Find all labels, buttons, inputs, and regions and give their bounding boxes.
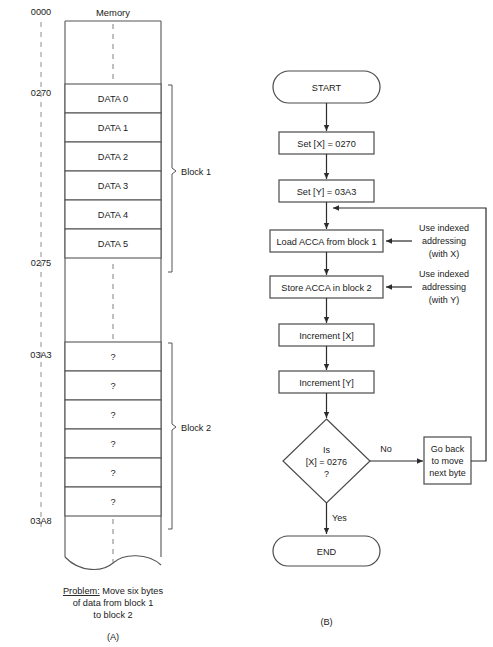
memory-column-torn-bottom <box>65 556 161 570</box>
flow-node-load-acca-label: Load ACCA from block 1 <box>276 237 376 247</box>
panel-b-flowchart: START Set [X] = 0270 Set [Y] = 03A3 Load… <box>270 71 486 627</box>
flow-node-decision-line3: ? <box>324 469 329 479</box>
annotation-load-line2: addressing <box>422 236 466 246</box>
block2-cell-label-0: ? <box>110 352 115 362</box>
annotation-load-line1: Use indexed <box>419 223 469 233</box>
memory-column-title: Memory <box>96 7 130 18</box>
block2-cell-label-1: ? <box>110 381 115 391</box>
address-label-03A8: 03A8 <box>30 516 51 526</box>
block1-cell-label-1: DATA 1 <box>98 123 128 133</box>
block1-label: Block 1 <box>181 167 211 177</box>
flow-node-decision-line2: [X] = 0276 <box>306 457 347 467</box>
flow-node-go-back-line2: to move <box>431 456 463 466</box>
panel-a-label: (A) <box>107 632 119 642</box>
annotation-store-line2: addressing <box>422 282 466 292</box>
flow-node-increment-x-label: Increment [X] <box>299 331 354 341</box>
block2-cells: ? ? ? ? ? ? <box>65 342 161 516</box>
annotation-load-line3: (with X) <box>429 249 460 259</box>
block2-cell-label-5: ? <box>110 497 115 507</box>
address-label-0000: 0000 <box>31 7 51 17</box>
block2-cell-label-2: ? <box>110 410 115 420</box>
flow-node-store-acca-label: Store ACCA in block 2 <box>281 283 371 293</box>
block1-cell-label-5: DATA 5 <box>98 239 128 249</box>
memory-block-move-figure: Memory 0000 0270 0275 03A3 03A8 DATA 0 <box>0 0 493 647</box>
flow-node-end-label: END <box>317 547 337 557</box>
block1-cell-label-4: DATA 4 <box>98 210 128 220</box>
branch-label-yes: Yes <box>332 513 347 523</box>
block2-cell-label-3: ? <box>110 439 115 449</box>
panel-a-caption-problem-word: Problem: <box>63 586 100 596</box>
block1-cells: DATA 0 DATA 1 DATA 2 DATA 3 DATA 4 DATA … <box>65 84 161 258</box>
flow-node-start-label: START <box>312 83 342 93</box>
address-label-0270: 0270 <box>31 88 51 98</box>
panel-a-memory-map: Memory 0000 0270 0275 03A3 03A8 DATA 0 <box>30 7 211 642</box>
flow-node-decision-line1: Is <box>323 445 331 455</box>
annotation-store-line3: (with Y) <box>429 295 459 305</box>
panel-a-caption-line2: of data from block 1 <box>73 598 154 608</box>
flow-node-go-back-line1: Go back <box>431 444 465 454</box>
block2-cell-label-4: ? <box>110 468 115 478</box>
address-label-0275: 0275 <box>31 258 51 268</box>
block1-brace <box>168 85 176 272</box>
block1-cell-label-0: DATA 0 <box>98 94 128 104</box>
branch-label-no: No <box>380 444 392 454</box>
figure-page: Memory 0000 0270 0275 03A3 03A8 DATA 0 <box>0 0 493 647</box>
panel-a-caption-line1: Problem: Move six bytes <box>63 586 163 596</box>
flow-node-set-y-label: Set [Y] = 03A3 <box>297 187 357 197</box>
flow-node-set-x-label: Set [X] = 0270 <box>297 139 356 149</box>
address-label-03A3: 03A3 <box>30 350 51 360</box>
flow-node-increment-y-label: Increment [Y] <box>299 378 354 388</box>
panel-b-label: (B) <box>320 617 332 627</box>
block1-cell-label-3: DATA 3 <box>98 181 128 191</box>
panel-a-caption-line3: to block 2 <box>93 610 132 620</box>
block1-cell-label-2: DATA 2 <box>98 152 128 162</box>
annotation-store-line1: Use indexed <box>419 269 469 279</box>
block2-brace <box>168 343 176 529</box>
flow-node-go-back-line3: next byte <box>429 468 466 478</box>
block2-label: Block 2 <box>181 423 211 433</box>
panel-a-caption-line1-rest: Move six bytes <box>100 586 164 596</box>
